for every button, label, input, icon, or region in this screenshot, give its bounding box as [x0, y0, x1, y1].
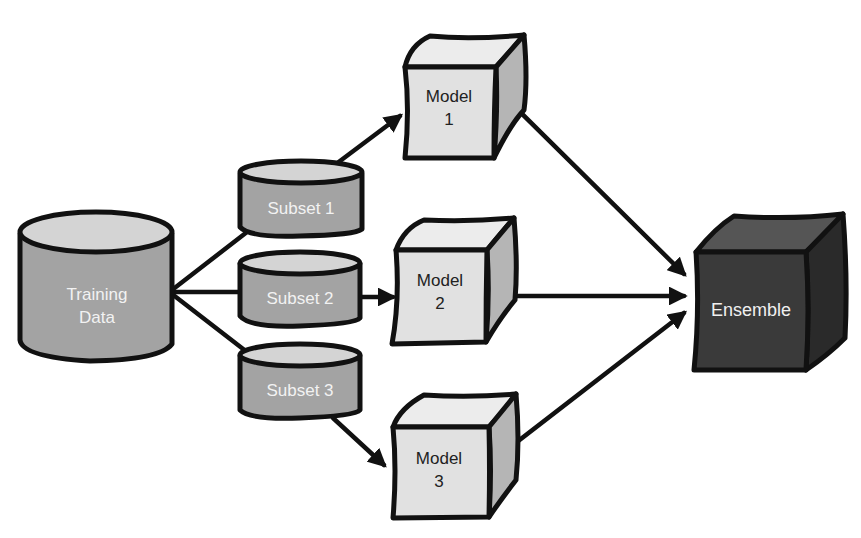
ensemble-label: Ensemble: [711, 300, 791, 320]
model-1-cube: Model 1: [405, 35, 526, 158]
subset-1-label: Subset 1: [267, 199, 334, 218]
model-3-label-line2: 3: [434, 472, 443, 491]
model-3-label-line1: Model: [416, 449, 462, 468]
training-data-label-line1: Training: [67, 285, 128, 304]
model-2-label-line1: Model: [417, 271, 463, 290]
model-3-cube: Model 3: [393, 394, 518, 518]
edge-training-subset3: [172, 294, 247, 352]
edge-model1-ensemble: [506, 98, 684, 274]
training-data-cylinder: Training Data: [20, 212, 172, 361]
subset-3-cylinder: Subset 3: [240, 344, 360, 418]
edge-training-subset1: [172, 232, 247, 290]
subset-2-label: Subset 2: [266, 289, 333, 308]
edge-model3-ensemble: [500, 313, 684, 455]
edge-subset3-model3: [333, 418, 384, 465]
edge-subset1-model1: [336, 116, 400, 164]
model-1-label-line1: Model: [426, 87, 472, 106]
model-1-label-line2: 1: [444, 110, 453, 129]
model-2-cube: Model 2: [392, 218, 516, 344]
subset-3-label: Subset 3: [266, 381, 333, 400]
subset-2-cylinder: Subset 2: [240, 252, 360, 326]
edges-models-to-ensemble: [494, 98, 684, 455]
subset-1-cylinder: Subset 1: [240, 161, 362, 236]
ensemble-diagram: Training Data Subset 1 Subset 2 Subset 3…: [0, 0, 861, 538]
edges-training-to-subsets: [172, 232, 247, 352]
model-2-label-line2: 2: [435, 294, 444, 313]
ensemble-cube: Ensemble: [694, 214, 846, 370]
training-data-label-line2: Data: [79, 308, 115, 327]
